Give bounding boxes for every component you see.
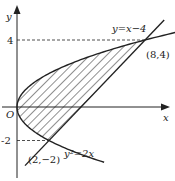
diagram-canvas: y x O 4 -2 y=x−4 y²=2x (8,4) (2,−2) xyxy=(0,0,175,181)
y-tick-neg2: -2 xyxy=(1,135,11,146)
shaded-region xyxy=(17,40,145,141)
y-tick-4: 4 xyxy=(7,35,13,46)
y-axis-label: y xyxy=(5,11,12,22)
x-axis-arrow-icon xyxy=(161,104,170,111)
point-8-4-label: (8,4) xyxy=(146,49,170,60)
origin-label: O xyxy=(6,109,14,120)
line-equation-label: y=x−4 xyxy=(111,23,146,34)
y-axis-arrow-icon xyxy=(14,5,21,14)
parabola-equation-label: y²=2x xyxy=(63,148,94,159)
x-axis-label: x xyxy=(163,112,169,123)
point-2-neg2-label: (2,−2) xyxy=(28,154,60,165)
